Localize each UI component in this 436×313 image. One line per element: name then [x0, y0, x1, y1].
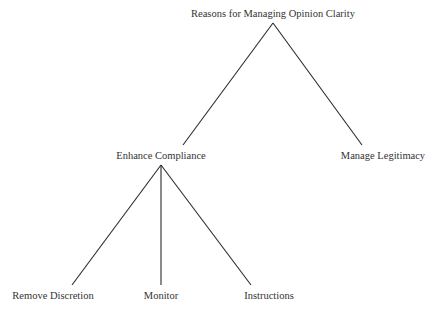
tree-diagram: Reasons for Managing Opinion Clarity Enh… [0, 0, 436, 313]
node-instructions: Instructions [244, 291, 294, 302]
edge-root-to-manage-legitimacy [273, 23, 362, 145]
edge-enhance-compliance-to-remove-discretion [72, 165, 161, 285]
edge-root-to-enhance-compliance [183, 23, 273, 145]
node-enhance-compliance: Enhance Compliance [116, 151, 206, 162]
node-remove-discretion: Remove Discretion [12, 291, 93, 302]
node-manage-legitimacy: Manage Legitimacy [341, 151, 425, 162]
node-root: Reasons for Managing Opinion Clarity [191, 9, 355, 20]
edge-enhance-compliance-to-instructions [161, 165, 251, 285]
node-monitor: Monitor [144, 291, 178, 302]
